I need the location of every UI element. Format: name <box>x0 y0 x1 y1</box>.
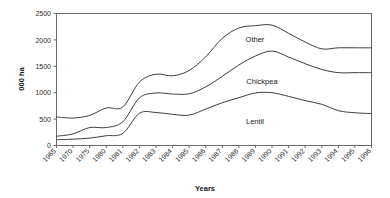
x-tick-label: 1994 <box>323 147 339 163</box>
x-axis-labels: 1965197019751980198119821983198419851986… <box>41 147 372 163</box>
series-label-other: Other <box>246 35 265 44</box>
x-tick-label: 1988 <box>224 147 240 163</box>
y-tick-label: 2000 <box>35 37 51 44</box>
plot-area-frame <box>57 14 372 146</box>
x-tick-label: 1975 <box>74 147 90 163</box>
chart-canvas: 05001000150020002500 1965197019751980198… <box>0 0 390 198</box>
x-tick-label: 1989 <box>240 147 256 163</box>
x-tick-label: 1981 <box>108 147 124 163</box>
x-tick-label: 1992 <box>290 147 306 163</box>
series-line-2 <box>57 25 372 119</box>
y-tick-label: 1000 <box>35 89 51 96</box>
y-tick-label: 500 <box>39 116 51 123</box>
chart-container: 05001000150020002500 1965197019751980198… <box>0 0 390 198</box>
x-tick-label: 1984 <box>157 147 173 163</box>
series-label-chickpea: Chickpea <box>246 77 278 86</box>
x-tick-label: 1983 <box>141 147 157 163</box>
series-line-1 <box>57 51 372 136</box>
x-tick-label: 1970 <box>58 147 74 163</box>
y-tick-label: 2500 <box>35 10 51 17</box>
x-tick-label: 1995 <box>340 147 356 163</box>
x-tick-label: 1996 <box>356 147 372 163</box>
x-tick-label: 1980 <box>91 147 107 163</box>
x-tick-label: 1990 <box>257 147 273 163</box>
series-label-lentil: Lentil <box>246 117 264 126</box>
x-tick-label: 1982 <box>124 147 140 163</box>
series-line-0 <box>57 92 372 139</box>
y-axis-title: 000 ha <box>17 67 26 91</box>
x-tick-label: 1993 <box>307 147 323 163</box>
x-tick-label: 1987 <box>207 147 223 163</box>
y-tick-label: 1500 <box>35 63 51 70</box>
x-tick-label: 1991 <box>273 147 289 163</box>
y-axis: 05001000150020002500 <box>35 10 56 149</box>
x-axis-title: Years <box>195 184 215 193</box>
series-lines <box>57 25 372 140</box>
x-tick-label: 1986 <box>190 147 206 163</box>
x-tick-label: 1985 <box>174 147 190 163</box>
x-tick-label: 1965 <box>41 147 57 163</box>
